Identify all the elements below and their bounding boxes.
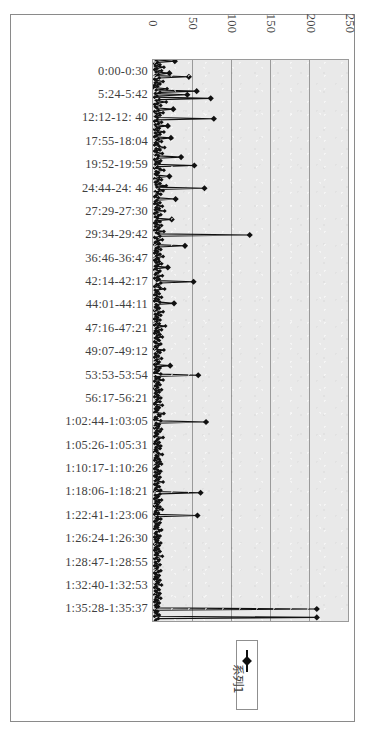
value-tick-150: 150 bbox=[263, 4, 278, 44]
category-label: 42:14-42:17 bbox=[85, 275, 148, 287]
category-label: 24:44-24: 46 bbox=[82, 182, 148, 194]
category-label: 1:02:44-1:03:05 bbox=[65, 415, 148, 427]
category-label: 29:34-29:42 bbox=[85, 228, 148, 240]
value-axis: 0 50 100 150 200 250 bbox=[0, 0, 365, 59]
value-tick-100: 100 bbox=[224, 4, 239, 44]
category-label: 1:28:47-1:28:55 bbox=[65, 556, 148, 568]
category-label: 1:32:40-1:32:53 bbox=[65, 579, 148, 591]
category-label: 1:26:24-1:26:30 bbox=[65, 532, 148, 544]
category-label: 53:53-53:54 bbox=[85, 369, 148, 381]
category-label: 49:07-49:12 bbox=[85, 345, 148, 357]
legend-label: 系列1 bbox=[231, 664, 247, 693]
category-label: 17:55-18:04 bbox=[85, 135, 148, 147]
category-label: 1:22:41-1:23:06 bbox=[65, 509, 148, 521]
category-label: 36:46-36:47 bbox=[85, 252, 148, 264]
category-label: 56:17-56:21 bbox=[85, 392, 148, 404]
category-label: 1:18:06-1:18:21 bbox=[65, 485, 148, 497]
category-label: 27:29-27:30 bbox=[85, 205, 148, 217]
category-label: 47:16-47:21 bbox=[85, 322, 148, 334]
category-label: 19:52-19:59 bbox=[85, 158, 148, 170]
category-label: 12:12-12: 40 bbox=[82, 111, 148, 123]
value-tick-0: 0 bbox=[145, 4, 160, 44]
category-label: 44:01-44:11 bbox=[86, 298, 148, 310]
plot-area bbox=[152, 59, 349, 622]
category-label: 1:10:17-1:10:26 bbox=[65, 462, 148, 474]
legend[interactable]: 系列1 bbox=[236, 640, 258, 710]
value-tick-50: 50 bbox=[185, 4, 200, 44]
category-axis: 0:00-0:305:24-5:4212:12-12: 4017:55-18:0… bbox=[8, 59, 150, 622]
value-tick-200: 200 bbox=[303, 4, 318, 44]
value-tick-250: 250 bbox=[342, 4, 357, 44]
category-label: 5:24-5:42 bbox=[98, 88, 148, 100]
category-label: 0:00-0:30 bbox=[98, 65, 148, 77]
category-label: 1:35:28-1:35:37 bbox=[65, 602, 148, 614]
series-line-1 bbox=[153, 60, 348, 621]
category-label: 1:05:26-1:05:31 bbox=[65, 439, 148, 451]
